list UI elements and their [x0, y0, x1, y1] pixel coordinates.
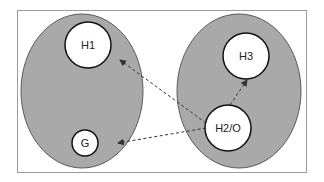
node-h3: H3: [223, 33, 269, 79]
node-h2o-label: H2/O: [215, 122, 241, 134]
node-h1: H1: [65, 22, 111, 68]
node-h2o: H2/O: [205, 105, 251, 151]
node-h3-label: H3: [239, 50, 253, 62]
node-g: G: [72, 130, 98, 156]
node-g-label: G: [81, 137, 90, 149]
node-h1-label: H1: [81, 39, 95, 51]
diagram-canvas: H1 G H3 H2/O: [0, 0, 324, 182]
